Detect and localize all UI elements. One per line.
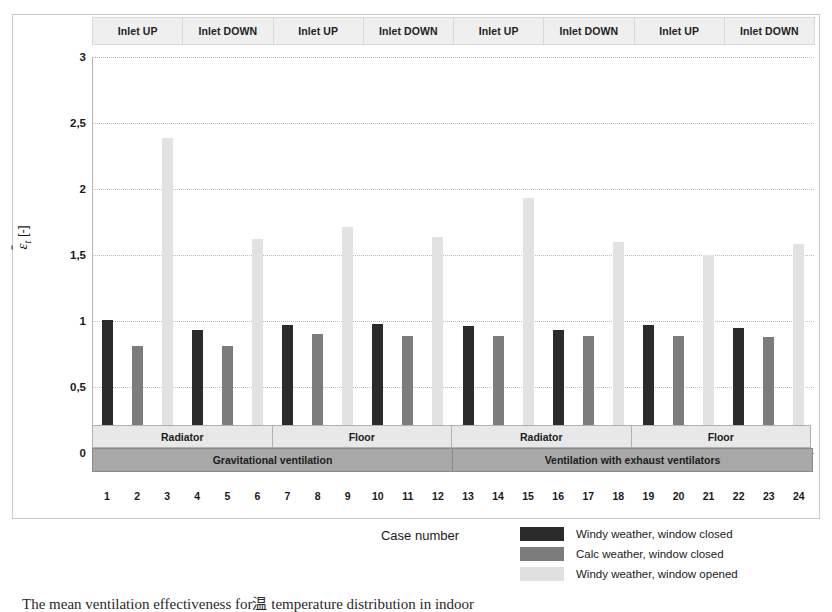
x-axis-tick-label: 15 [513, 490, 543, 508]
bar-slot [182, 57, 212, 453]
bar-slot [694, 57, 724, 453]
plot-area [92, 57, 814, 453]
y-axis-tick-label: 2 [46, 183, 86, 195]
x-axis-tick-label: 13 [453, 490, 483, 508]
bar-slot [603, 57, 633, 453]
bar-slot [513, 57, 543, 453]
band-cell: Floor [272, 425, 453, 448]
x-axis-tick-label: 8 [303, 490, 333, 508]
heating-type-band: RadiatorFloorRadiatorFloor [92, 425, 814, 448]
legend-label: Calc weather, window closed [576, 548, 724, 560]
x-axis-tick-label: 12 [423, 490, 453, 508]
bar-slot [634, 57, 664, 453]
x-axis-tick-label: 11 [393, 490, 423, 508]
legend-swatch [520, 567, 564, 581]
inlet-direction-band: Inlet UPInlet DOWNInlet UPInlet DOWNInle… [92, 17, 814, 45]
ventilation-type-band: Gravitational ventilationVentilation wit… [92, 448, 814, 472]
x-axis-tick-label: 7 [272, 490, 302, 508]
bar[interactable] [162, 138, 173, 453]
x-axis-tick-label: 16 [543, 490, 573, 508]
x-axis-tick-label: 14 [483, 490, 513, 508]
bar[interactable] [523, 198, 534, 453]
bar-slot [92, 57, 122, 453]
inlet-band-cell: Inlet DOWN [182, 17, 273, 45]
inlet-band-cell: Inlet UP [273, 17, 364, 45]
band-cell: Ventilation with exhaust ventilators [452, 448, 813, 472]
figure-caption: The mean ventilation effectiveness for温 … [22, 592, 812, 612]
y-axis-tick-label: 0 [46, 447, 86, 459]
legend-item[interactable]: Windy weather, window opened [520, 564, 820, 584]
legend-swatch [520, 547, 564, 561]
inlet-band-cell: Inlet UP [92, 17, 183, 45]
legend-swatch [520, 527, 564, 541]
y-axis-tick-label: 1,5 [46, 249, 86, 261]
bar-slot [543, 57, 573, 453]
bar[interactable] [432, 237, 443, 453]
y-axis-ticks: 00,511,522,53 [34, 57, 86, 453]
x-axis-tick-label: 24 [784, 490, 814, 508]
y-axis-title: εt [-] [14, 225, 33, 251]
y-axis-tick-label: 1 [46, 315, 86, 327]
legend-item[interactable]: Calc weather, window closed [520, 544, 820, 564]
bar-slot [303, 57, 333, 453]
legend-label: Windy weather, window closed [576, 528, 733, 540]
bar-slot [212, 57, 242, 453]
bar-slot [754, 57, 784, 453]
x-axis-ticks: 123456789101112131415161718192021222324 [92, 490, 814, 508]
bar-slot [573, 57, 603, 453]
bar-slot [333, 57, 363, 453]
bar-slot [453, 57, 483, 453]
x-axis-tick-label: 19 [633, 490, 663, 508]
inlet-band-cell: Inlet DOWN [363, 17, 454, 45]
inlet-band-cell: Inlet UP [634, 17, 725, 45]
chart-legend: Windy weather, window closedCalc weather… [520, 524, 820, 584]
inlet-band-cell: Inlet DOWN [543, 17, 634, 45]
x-axis-tick-label: 6 [242, 490, 272, 508]
band-cell: Floor [631, 425, 812, 448]
bar-slot [784, 57, 814, 453]
bar[interactable] [703, 255, 714, 453]
bar-slot [664, 57, 694, 453]
bar-slot [724, 57, 754, 453]
y-axis-tick-label: 2,5 [46, 117, 86, 129]
inlet-band-cell: Inlet UP [453, 17, 544, 45]
inlet-band-cell: Inlet DOWN [724, 17, 815, 45]
x-axis-tick-label: 21 [694, 490, 724, 508]
band-cell: Radiator [451, 425, 632, 448]
bar[interactable] [793, 244, 804, 453]
x-axis-tick-label: 17 [573, 490, 603, 508]
x-axis-tick-label: 4 [182, 490, 212, 508]
x-axis-tick-label: 10 [363, 490, 393, 508]
x-axis-tick-label: 22 [724, 490, 754, 508]
bar-slot [273, 57, 303, 453]
bar-slot [122, 57, 152, 453]
band-cell: Gravitational ventilation [92, 448, 453, 472]
bar-slot [242, 57, 272, 453]
bar[interactable] [613, 242, 624, 453]
x-axis-tick-label: 1 [92, 490, 122, 508]
x-axis-tick-label: 23 [754, 490, 784, 508]
bar-slot [152, 57, 182, 453]
bar[interactable] [252, 239, 263, 453]
x-axis-tick-label: 20 [663, 490, 693, 508]
legend-label: Windy weather, window opened [576, 568, 738, 580]
x-axis-tick-label: 3 [152, 490, 182, 508]
bar-slot [363, 57, 393, 453]
y-axis-unit: [-] [15, 226, 30, 238]
y-axis-tick-label: 3 [46, 51, 86, 63]
x-axis-tick-label: 2 [122, 490, 152, 508]
x-axis-tick-label: 5 [212, 490, 242, 508]
bar-slot [483, 57, 513, 453]
bar-slot [393, 57, 423, 453]
x-axis-tick-label: 18 [603, 490, 633, 508]
y-axis-symbol: ε [14, 244, 31, 250]
legend-item[interactable]: Windy weather, window closed [520, 524, 820, 544]
y-axis-tick-label: 0,5 [46, 381, 86, 393]
figure-container: Inlet UPInlet DOWNInlet UPInlet DOWNInle… [0, 0, 832, 612]
bar[interactable] [342, 227, 353, 453]
x-axis-tick-label: 9 [333, 490, 363, 508]
x-axis-title: Case number [300, 528, 540, 543]
bar-slot [423, 57, 453, 453]
bar-series-group [92, 57, 814, 453]
band-cell: Radiator [92, 425, 273, 448]
